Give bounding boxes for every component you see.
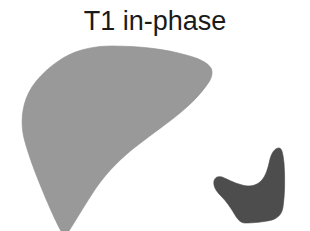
organ-segmentation-canvas: [0, 0, 310, 231]
figure-container: T1 in-phase: [0, 0, 310, 231]
liver-region: [22, 46, 212, 231]
spleen-region: [214, 148, 285, 223]
